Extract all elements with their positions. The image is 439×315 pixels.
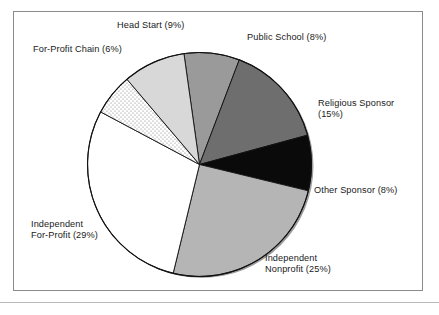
slice-label-independent-for-profit: Independent For-Profit (29%): [31, 219, 98, 242]
pie-chart-figure: Head Start (9%) Public School (8%) For-P…: [0, 0, 439, 315]
footer-rule: [0, 302, 439, 303]
slice-label-religious-sponsor: Religious Sponsor (15%): [318, 98, 394, 121]
slice-label-head-start: Head Start (9%): [117, 20, 184, 31]
slice-label-other-sponsor: Other Sponsor (8%): [314, 185, 398, 196]
slice-label-for-profit-chain: For-Profit Chain (6%): [33, 44, 122, 55]
slice-label-public-school: Public School (8%): [247, 32, 326, 43]
slice-label-independent-nonprofit: Independent Nonprofit (25%): [265, 253, 331, 276]
pie-slices: [87, 53, 311, 277]
